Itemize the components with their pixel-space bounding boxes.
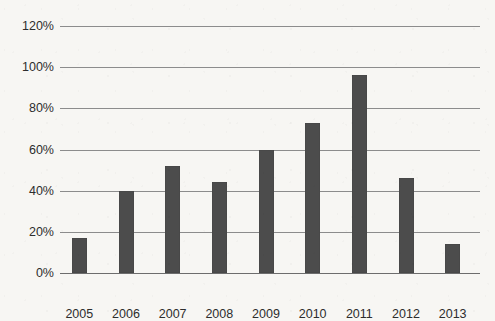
x-axis-tick-label: 2010: [299, 307, 327, 321]
y-axis-tick-label: 120%: [6, 19, 54, 33]
y-axis-tick-label: 60%: [6, 143, 54, 157]
x-axis-tick-label: 2007: [159, 307, 187, 321]
bar-2006: [119, 191, 134, 273]
y-axis-tick-label: 80%: [6, 101, 54, 115]
bar-2008: [212, 182, 227, 273]
x-axis-tick-label: 2011: [346, 307, 373, 321]
gridline-80pct: [60, 108, 480, 109]
x-axis-tick-label: 2005: [65, 307, 93, 321]
x-axis-tick-label: 2012: [392, 307, 420, 321]
bar-2010: [305, 123, 320, 273]
plot-area: 0%20%40%60%80%100%120% 20052006200720082…: [60, 26, 480, 273]
y-axis-tick-label: 0%: [6, 266, 54, 280]
gridline-0pct: [60, 273, 480, 274]
bar-2005: [72, 238, 87, 273]
bar-2012: [399, 178, 414, 273]
x-axis-tick-label: 2013: [439, 307, 467, 321]
x-axis-tick-label: 2006: [112, 307, 140, 321]
x-axis-tick-label: 2009: [252, 307, 280, 321]
y-axis-tick-label: 100%: [6, 60, 54, 74]
gridline-100pct: [60, 67, 480, 68]
x-axis-tick-label: 2008: [205, 307, 233, 321]
bar-2013: [445, 244, 460, 273]
gridline-120pct: [60, 26, 480, 27]
y-axis-tick-label: 40%: [6, 184, 54, 198]
bar-2009: [259, 150, 274, 274]
bar-2011: [352, 75, 367, 273]
bar-2007: [165, 166, 180, 273]
y-axis-tick-label: 20%: [6, 225, 54, 239]
